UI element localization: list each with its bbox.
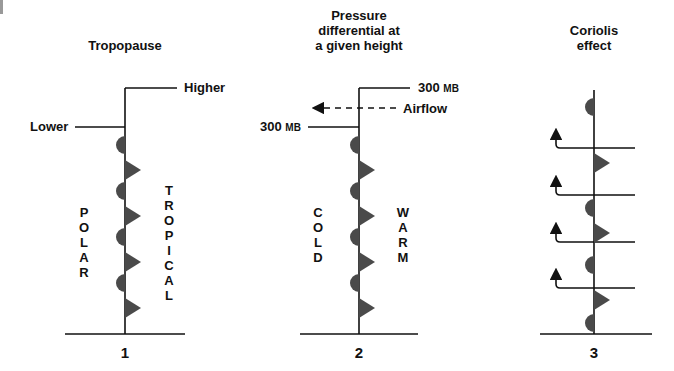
edge-artifact	[0, 0, 3, 14]
triangle-cold-front-symbol	[125, 160, 141, 180]
triangle-cold-front-symbol	[125, 206, 141, 226]
semicircle-warm-front-symbol	[585, 98, 594, 116]
triangle-cold-front-symbol	[359, 160, 375, 180]
panel-3-title-line-1: Coriolis	[570, 23, 618, 38]
panel-3-coriolis-effect: Coriolis effect 3	[540, 23, 652, 361]
semicircle-warm-front-symbol	[116, 182, 125, 200]
semicircle-warm-front-symbol	[116, 136, 125, 154]
panel-2-pressure-differential: Pressure differential at a given height …	[260, 8, 459, 361]
up-arrow-icon	[556, 134, 635, 148]
upper-300mb-label: 300 MB	[418, 80, 459, 95]
semicircle-warm-front-symbol	[116, 274, 125, 292]
svg-text:TROPICAL: TROPICAL	[164, 183, 174, 303]
up-arrow-icon	[556, 274, 635, 288]
panel-1-number: 1	[121, 344, 129, 361]
triangle-cold-front-symbol	[359, 252, 375, 272]
triangle-cold-front-symbol	[594, 223, 610, 243]
panel-1-title: Tropopause	[88, 38, 162, 53]
panel-2-title-line-1: Pressure	[331, 8, 387, 23]
triangle-cold-front-symbol	[359, 298, 375, 318]
semicircle-warm-front-symbol	[116, 228, 125, 246]
panel-3-title-line-2: effect	[577, 38, 612, 53]
triangle-cold-front-symbol	[594, 153, 610, 173]
panel-2-number: 2	[355, 344, 363, 361]
tropical-vertical-label: TROPICAL	[164, 183, 174, 303]
higher-label: Higher	[184, 80, 225, 95]
cold-vertical-label: COLD	[313, 205, 323, 265]
triangle-cold-front-symbol	[359, 206, 375, 226]
polar-vertical-label: POLAR	[79, 205, 89, 280]
triangle-cold-front-symbol	[594, 290, 610, 310]
svg-text:COLD: COLD	[313, 205, 323, 265]
panel-2-title-line-2: differential at	[318, 23, 400, 38]
svg-text:POLAR: POLAR	[79, 205, 89, 280]
semicircle-warm-front-symbol	[585, 199, 594, 217]
warm-vertical-label: WARM	[397, 205, 410, 265]
front-diagram: Tropopause Higher Lower 1 POLAR TROPICAL…	[0, 0, 674, 371]
panel-1-tropopause: Tropopause Higher Lower 1 POLAR TROPICAL	[30, 38, 225, 361]
semicircle-warm-front-symbol	[350, 182, 359, 200]
up-arrow-icon	[556, 181, 635, 195]
semicircle-warm-front-symbol	[350, 228, 359, 246]
triangle-cold-front-symbol	[125, 252, 141, 272]
semicircle-warm-front-symbol	[585, 314, 594, 332]
panel-3-number: 3	[590, 344, 598, 361]
semicircle-warm-front-symbol	[585, 256, 594, 274]
panel-2-title-line-3: a given height	[315, 38, 403, 53]
lower-label: Lower	[30, 119, 68, 134]
lower-300mb-label: 300 MB	[260, 119, 301, 134]
airflow-label: Airflow	[403, 101, 448, 116]
svg-text:WARM: WARM	[397, 205, 410, 265]
semicircle-warm-front-symbol	[350, 274, 359, 292]
triangle-cold-front-symbol	[125, 298, 141, 318]
semicircle-warm-front-symbol	[350, 136, 359, 154]
